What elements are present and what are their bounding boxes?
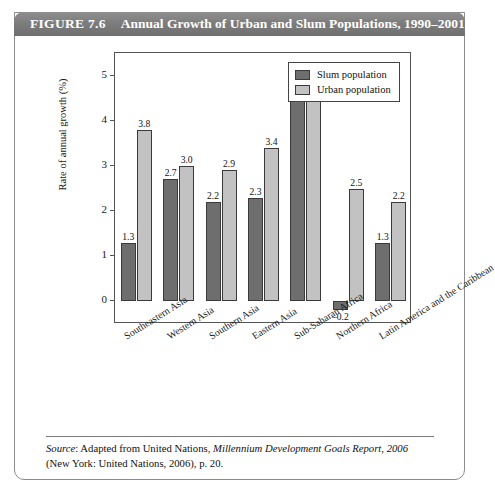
figure-header-bar: FIGURE 7.6 Annual Growth of Urban and Sl…	[14, 12, 465, 36]
legend-item-slum: Slum population	[295, 67, 391, 82]
y-tick-label: 2	[85, 203, 107, 215]
legend-item-urban: Urban population	[295, 82, 391, 97]
y-tick-label: 1	[85, 248, 107, 260]
bar-urban	[222, 170, 237, 301]
legend-swatch-slum-icon	[295, 70, 310, 80]
legend-label-slum: Slum population	[317, 69, 387, 80]
source-text-before: : Adapted from United Nations,	[75, 442, 213, 454]
figure-number-label: FIGURE 7.6	[30, 16, 106, 32]
bar-value-label: 2.2	[386, 190, 412, 201]
figure-title: Annual Growth of Urban and Slum Populati…	[121, 16, 465, 32]
bar-slum	[248, 198, 263, 302]
bar-slum	[121, 243, 136, 302]
y-tick-label: 5	[85, 68, 107, 80]
bar-slum	[290, 98, 305, 301]
y-tick-label: 3	[85, 158, 107, 170]
source-prefix: Source	[46, 442, 75, 454]
y-tick-label: 4	[85, 113, 107, 125]
bar-urban	[391, 202, 406, 301]
legend-swatch-urban-icon	[295, 85, 310, 95]
bar-urban	[137, 130, 152, 302]
bar-value-label: 3.8	[131, 118, 157, 129]
bar-value-label: 2.9	[216, 158, 242, 169]
bar-slum	[163, 179, 178, 301]
chart-legend: Slum population Urban population	[288, 62, 400, 102]
plot-frame: 1.33.82.73.02.22.92.33.44.54.6–0.22.51.3…	[114, 52, 411, 323]
bar-urban	[264, 148, 279, 302]
figure-container: FIGURE 7.6 Annual Growth of Urban and Sl…	[14, 12, 465, 480]
bar-value-label: 2.5	[343, 177, 369, 188]
y-axis-title: Rate of annual growth (%)	[57, 50, 68, 220]
bar-value-label: 3.4	[259, 136, 285, 147]
bar-urban	[179, 166, 194, 302]
source-italic-title: Millennium Development Goals Report, 200…	[213, 442, 408, 454]
chart-area: Rate of annual growth (%) 012345 1.33.82…	[15, 37, 464, 429]
y-tick-label: 0	[85, 293, 107, 305]
source-divider	[46, 436, 434, 437]
bar-urban	[306, 94, 321, 302]
bar-slum	[375, 243, 390, 302]
bar-value-label: 3.0	[174, 154, 200, 165]
legend-label-urban: Urban population	[317, 84, 391, 95]
source-text-after: (New York: United Nations, 2006), p. 20.	[46, 457, 223, 469]
bar-urban	[349, 189, 364, 302]
source-note: Source: Adapted from United Nations, Mil…	[46, 441, 446, 470]
bar-slum	[206, 202, 221, 301]
